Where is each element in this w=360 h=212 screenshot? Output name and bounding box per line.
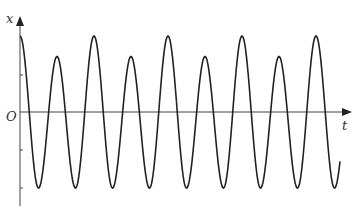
chart: x t O bbox=[0, 0, 360, 212]
x-axis-arrow-icon bbox=[342, 108, 352, 116]
plot-area: x t O bbox=[0, 0, 360, 212]
origin-label: O bbox=[6, 109, 17, 124]
y-axis-arrow-icon bbox=[16, 16, 24, 26]
x-axis-label: t bbox=[342, 118, 348, 133]
y-axis-label: x bbox=[6, 11, 14, 26]
